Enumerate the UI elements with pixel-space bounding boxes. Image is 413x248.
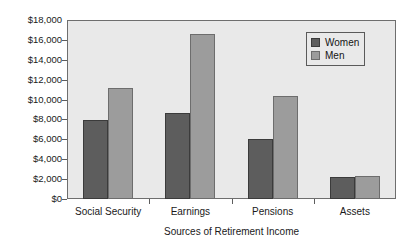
x-axis-tick-label: Social Security bbox=[75, 205, 141, 218]
retirement-income-bar-chart: $0$2,000$4,000$6,000$8,000$10,000$12,000… bbox=[0, 0, 413, 248]
y-axis-label-group: $0$2,000$4,000$6,000$8,000$10,000$12,000… bbox=[0, 0, 62, 248]
y-axis-tick-label: $12,000 bbox=[0, 75, 62, 85]
y-axis-tick-label: $10,000 bbox=[0, 95, 62, 105]
y-axis-tick-label: $16,000 bbox=[0, 35, 62, 45]
bar-women-assets bbox=[330, 177, 355, 199]
x-axis-tick-label: Pensions bbox=[252, 205, 293, 218]
bar-men-assets bbox=[355, 176, 380, 199]
x-axis-title: Sources of Retirement Income bbox=[67, 225, 396, 238]
legend-label: Men bbox=[325, 50, 344, 62]
x-axis-tick-mark bbox=[314, 199, 315, 204]
legend-swatch-icon bbox=[311, 38, 320, 47]
bar-women-earnings bbox=[165, 113, 190, 199]
legend-swatch-icon bbox=[311, 51, 320, 60]
y-axis-tick-label: $4,000 bbox=[0, 154, 62, 164]
x-axis-tick-mark bbox=[149, 199, 150, 204]
y-axis-tick-label: $8,000 bbox=[0, 114, 62, 124]
bar-men-pensions bbox=[273, 96, 298, 199]
bar-women-pensions bbox=[248, 139, 273, 199]
y-axis-tick-label: $0 bbox=[0, 194, 62, 204]
legend-label: Women bbox=[325, 37, 359, 49]
legend-entry-men: Men bbox=[311, 49, 359, 62]
legend-entry-women: Women bbox=[311, 36, 359, 49]
x-axis-tick-label: Earnings bbox=[171, 205, 210, 218]
y-axis-tick-label: $14,000 bbox=[0, 55, 62, 65]
x-axis-tick-label: Assets bbox=[340, 205, 370, 218]
y-axis-tick-label: $6,000 bbox=[0, 134, 62, 144]
bar-men-earnings bbox=[190, 34, 215, 199]
y-axis-tick-label: $2,000 bbox=[0, 174, 62, 184]
legend: WomenMen bbox=[306, 32, 365, 66]
bar-women-social-security bbox=[83, 120, 108, 199]
bar-men-social-security bbox=[108, 88, 133, 199]
x-axis-label-group: Social SecurityEarningsPensionsAssets bbox=[67, 205, 396, 221]
y-axis-tick-label: $18,000 bbox=[0, 15, 62, 25]
x-axis-tick-mark bbox=[232, 199, 233, 204]
